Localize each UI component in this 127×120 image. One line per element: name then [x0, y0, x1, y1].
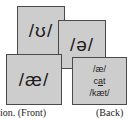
flashcard-ae-back: /æ/ cat /kæt/: [72, 57, 127, 105]
back-transcription: /kæt/: [89, 87, 109, 99]
flashcard-symbol: /ə/: [70, 34, 94, 56]
caption-front: ion. (Front): [0, 107, 46, 118]
flashcard-symbol: /ʊ/: [29, 20, 53, 42]
caption-back: (Back): [96, 107, 123, 118]
back-symbol: /æ/: [93, 63, 106, 75]
flashcard-symbol: /æ/: [19, 69, 49, 91]
flashcard-ae-front: /æ/: [6, 54, 62, 105]
back-example-word: cat: [93, 75, 105, 87]
